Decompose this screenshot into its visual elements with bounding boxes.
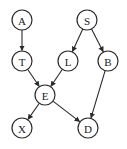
- node-label: A: [18, 15, 26, 27]
- node-l: L: [58, 51, 78, 71]
- graph-svg: ASTLBEXD: [0, 0, 127, 149]
- edge-s-to-b: [92, 29, 104, 52]
- edge-b-to-d: [91, 71, 105, 118]
- node-label: D: [84, 123, 92, 135]
- node-label: L: [65, 56, 72, 68]
- node-label: E: [42, 90, 49, 102]
- node-e: E: [35, 85, 55, 105]
- edge-e-to-d: [53, 101, 80, 122]
- node-label: T: [19, 56, 26, 68]
- node-a: A: [12, 10, 32, 30]
- edge-t-to-e: [28, 69, 40, 86]
- node-d: D: [78, 118, 98, 138]
- edge-l-to-e: [51, 69, 63, 86]
- node-s: S: [77, 10, 97, 30]
- node-t: T: [12, 51, 32, 71]
- node-x: X: [12, 118, 32, 138]
- node-label: S: [84, 15, 90, 27]
- bayesian-network-diagram: ASTLBEXD: [0, 0, 127, 149]
- edge-e-to-x: [28, 103, 39, 119]
- node-label: B: [104, 56, 111, 68]
- edge-s-to-l: [72, 29, 82, 51]
- node-b: B: [98, 51, 118, 71]
- node-label: X: [18, 123, 26, 135]
- edges-group: [22, 29, 105, 122]
